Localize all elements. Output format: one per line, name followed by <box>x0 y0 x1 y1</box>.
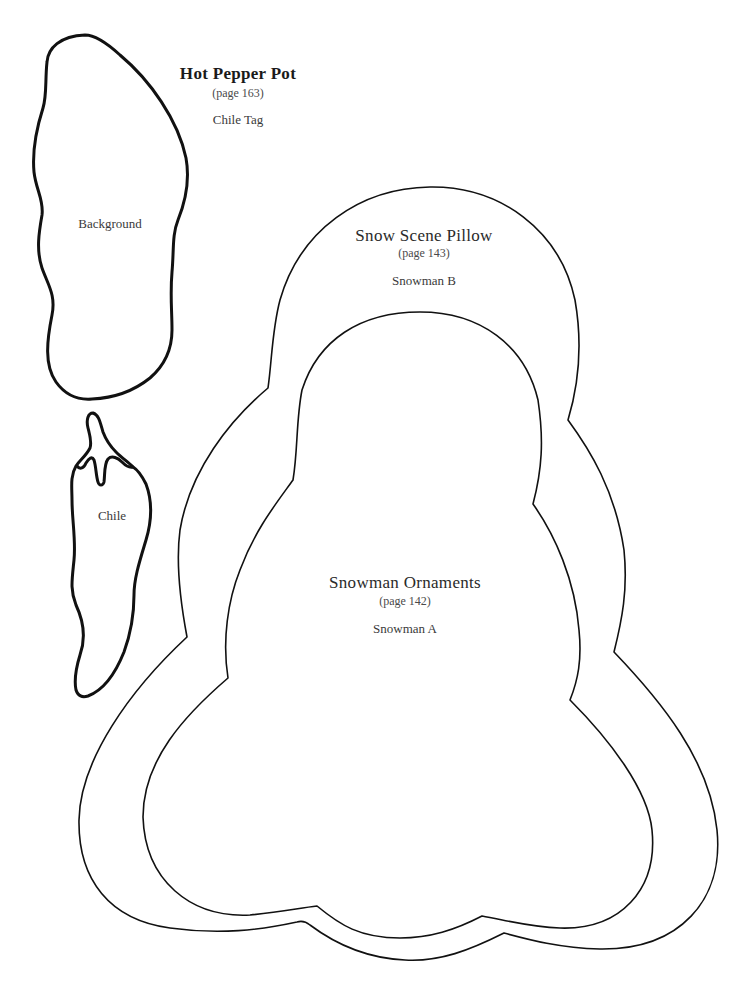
snowman-ornaments-title: Snowman Ornaments <box>329 573 481 593</box>
snow-scene-pillow-page-ref: (page 143) <box>398 246 450 261</box>
pattern-page: Hot Pepper Pot (page 163) Chile Tag Back… <box>0 0 752 981</box>
hot-pepper-pot-title: Hot Pepper Pot <box>180 64 296 84</box>
background-piece-label: Background <box>78 216 142 232</box>
hot-pepper-pot-page-ref: (page 163) <box>212 86 264 101</box>
pattern-outlines <box>0 0 752 981</box>
chile-piece-label: Chile <box>98 508 126 524</box>
snow-scene-pillow-title: Snow Scene Pillow <box>355 226 492 246</box>
snowman-ornaments-page-ref: (page 142) <box>379 594 431 609</box>
snowman-b-label: Snowman B <box>392 273 456 289</box>
chile-tag-label: Chile Tag <box>213 112 263 128</box>
snowman-a-label: Snowman A <box>373 621 437 637</box>
chile-piece-outline <box>72 413 151 697</box>
